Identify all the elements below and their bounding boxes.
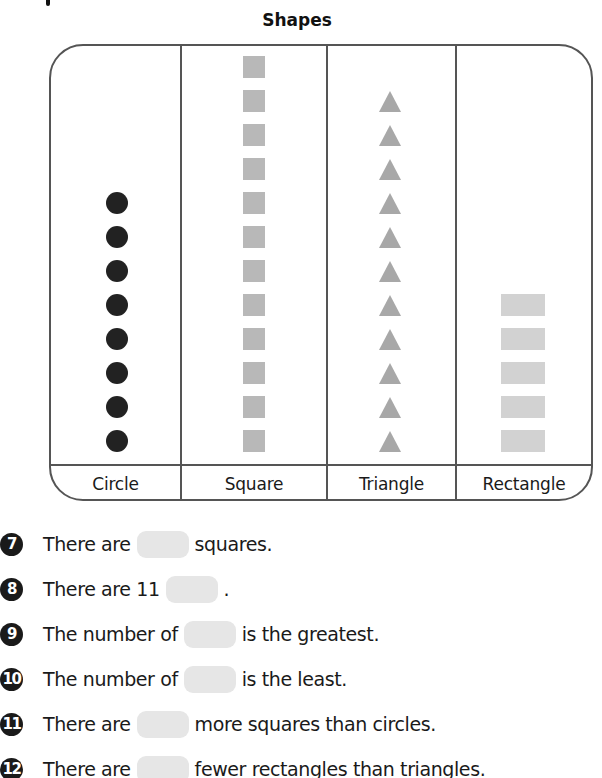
question-number-badge: 8 — [0, 578, 23, 601]
triangle-symbol — [379, 431, 401, 452]
square-symbol — [243, 124, 265, 146]
rectangle-symbol — [501, 396, 545, 418]
circle-symbol — [106, 294, 128, 316]
column-divider — [180, 46, 182, 499]
answer-box[interactable] — [184, 621, 236, 648]
question-10: 10 The number of is the least. — [0, 664, 347, 694]
answer-box[interactable] — [184, 666, 236, 693]
circle-symbol — [106, 260, 128, 282]
circle-symbol — [106, 328, 128, 350]
circle-symbol — [106, 362, 128, 384]
rectangle-symbol — [501, 430, 545, 452]
column-divider — [326, 46, 328, 499]
answer-box[interactable] — [166, 576, 218, 603]
triangle-symbol — [379, 397, 401, 418]
question-text-before: The number of — [43, 668, 178, 690]
square-symbol — [243, 158, 265, 180]
triangle-symbol — [379, 295, 401, 316]
answer-box[interactable] — [137, 531, 189, 558]
question-8: 8 There are 11 . — [0, 574, 229, 604]
question-text-after: is the greatest. — [242, 623, 379, 645]
triangle-symbol — [379, 91, 401, 112]
chart-title: Shapes — [0, 10, 598, 30]
column-divider — [455, 46, 457, 499]
question-text-after: more squares than circles. — [195, 713, 436, 735]
triangle-symbol — [379, 363, 401, 384]
question-11: 11 There are more squares than circles. — [0, 709, 436, 739]
rectangle-symbol — [501, 362, 545, 384]
circle-symbol — [106, 396, 128, 418]
answer-box[interactable] — [137, 711, 189, 738]
question-text-before: There are — [43, 533, 131, 555]
square-symbol — [243, 260, 265, 282]
question-12: 12 There are fewer rectangles than trian… — [0, 754, 485, 778]
square-symbol — [243, 362, 265, 384]
circle-symbol — [106, 192, 128, 214]
category-label-rectangle: Rectangle — [457, 466, 591, 501]
square-symbol — [243, 56, 265, 78]
square-symbol — [243, 90, 265, 112]
question-text-before: There are 11 — [43, 578, 160, 600]
question-text-after: . — [224, 578, 230, 600]
square-symbol — [243, 226, 265, 248]
triangle-symbol — [379, 159, 401, 180]
question-text-after: squares. — [195, 533, 272, 555]
rectangle-symbol — [501, 328, 545, 350]
triangle-symbol — [379, 227, 401, 248]
answer-box[interactable] — [137, 756, 189, 778]
question-number-badge: 10 — [0, 668, 23, 691]
category-label-square: Square — [182, 466, 326, 501]
circle-symbol — [106, 430, 128, 452]
category-label-circle: Circle — [51, 466, 180, 501]
triangle-symbol — [379, 261, 401, 282]
question-text-before: There are — [43, 713, 131, 735]
square-symbol — [243, 294, 265, 316]
triangle-symbol — [379, 329, 401, 350]
circle-symbol — [106, 226, 128, 248]
square-symbol — [243, 328, 265, 350]
question-number-badge: 9 — [0, 623, 23, 646]
question-number-badge: 11 — [0, 713, 23, 736]
question-text-after: is the least. — [242, 668, 347, 690]
question-9: 9 The number of is the greatest. — [0, 619, 379, 649]
square-symbol — [243, 430, 265, 452]
pictograph-chart: Circle Square Triangle Rectangle — [49, 44, 593, 501]
triangle-symbol — [379, 193, 401, 214]
question-number-badge: 12 — [0, 758, 23, 778]
question-text-before: There are — [43, 758, 131, 778]
rectangle-symbol — [501, 294, 545, 316]
question-number-badge: 7 — [0, 533, 23, 556]
question-7: 7 There are squares. — [0, 529, 272, 559]
question-text-after: fewer rectangles than triangles. — [195, 758, 486, 778]
question-text-before: The number of — [43, 623, 178, 645]
cropped-heading-fragment — [46, 0, 50, 6]
square-symbol — [243, 192, 265, 214]
square-symbol — [243, 396, 265, 418]
triangle-symbol — [379, 125, 401, 146]
category-label-triangle: Triangle — [328, 466, 455, 501]
